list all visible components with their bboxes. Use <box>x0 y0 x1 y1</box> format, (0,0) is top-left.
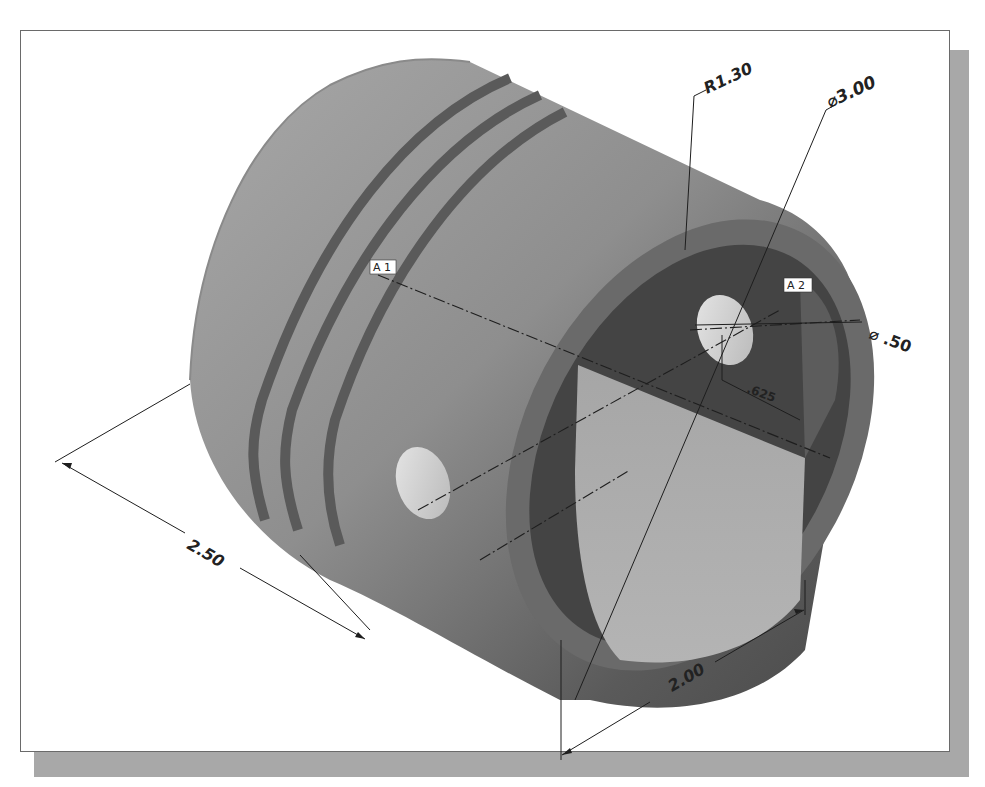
axis-tag-a2: A 2 <box>784 278 812 292</box>
dim-outer-diameter: ⌀3.00 <box>823 71 879 111</box>
dim-pin-hole-diameter: ⌀ .50 <box>867 324 914 357</box>
svg-text:A 1: A 1 <box>373 261 391 274</box>
axis-tag-a1: A 1 <box>370 260 396 274</box>
dim-length: 2.50 <box>184 535 228 571</box>
svg-text:A 2: A 2 <box>787 279 805 292</box>
piston-drawing: R1.30 ⌀3.00 ⌀ .50 .625 2.50 2.00 A 1 A 2 <box>0 0 985 787</box>
dim-radius: R1.30 <box>701 59 756 98</box>
